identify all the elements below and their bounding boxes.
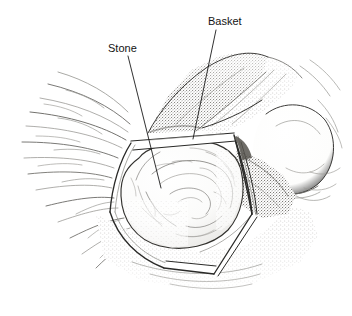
stone-in-basket-illustration: Stone Basket	[0, 0, 352, 316]
label-stone: Stone	[108, 42, 137, 54]
label-basket: Basket	[208, 15, 242, 27]
illustration-figure: Stone Basket	[0, 0, 352, 316]
